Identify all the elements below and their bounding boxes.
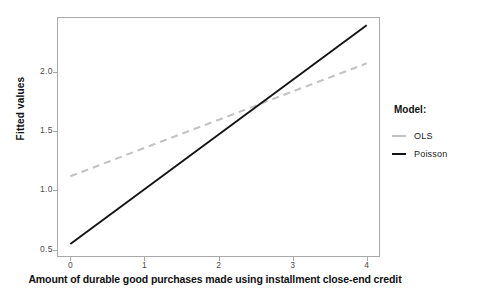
- x-tick-label: 1: [134, 260, 154, 270]
- x-axis-title: Amount of durable good purchases made us…: [0, 273, 430, 285]
- y-axis-title: Fitted values: [15, 59, 26, 159]
- plot-lines: [57, 17, 380, 257]
- series-line-ols: [70, 63, 366, 176]
- y-tick-label: 1.0: [0, 184, 53, 194]
- y-tick-label: 2.0: [0, 66, 53, 76]
- legend-item-poisson[interactable]: Poisson: [392, 145, 477, 162]
- y-tick-mark: [53, 131, 57, 132]
- x-tick-label: 2: [209, 260, 229, 270]
- chart-figure: 0.51.01.52.0 01234 Fitted values Amount …: [0, 0, 477, 297]
- legend-title: Model:: [392, 104, 477, 115]
- legend-swatch-poisson-icon: [392, 150, 406, 158]
- x-tick-label: 0: [60, 260, 80, 270]
- legend-swatch-ols-icon: [392, 132, 406, 140]
- legend-label-ols: OLS: [414, 131, 433, 141]
- series-line-poisson: [70, 25, 366, 244]
- y-tick-label: 0.5: [0, 244, 53, 254]
- y-tick-label: 1.5: [0, 125, 53, 135]
- y-tick-mark: [53, 190, 57, 191]
- legend-item-ols[interactable]: OLS: [392, 127, 477, 144]
- x-tick-label: 3: [283, 260, 303, 270]
- legend: Model: OLS Poisson: [392, 104, 477, 163]
- y-tick-mark: [53, 250, 57, 251]
- x-tick-mark: [367, 257, 368, 261]
- legend-label-poisson: Poisson: [414, 149, 447, 159]
- y-tick-mark: [53, 72, 57, 73]
- x-tick-label: 4: [357, 260, 377, 270]
- x-tick-mark: [70, 257, 71, 261]
- x-tick-mark: [219, 257, 220, 261]
- x-tick-mark: [293, 257, 294, 261]
- x-tick-mark: [144, 257, 145, 261]
